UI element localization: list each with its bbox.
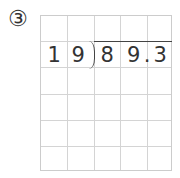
dividend-digit: 8 — [94, 42, 120, 68]
divisor-digit: 1 — [41, 42, 67, 68]
grid-line — [41, 94, 171, 95]
divisor-digit: 9 — [65, 42, 91, 68]
long-division-grid: 1 9 8 9 . 3 — [40, 15, 172, 171]
grid-line — [41, 146, 171, 147]
problem-number: ③ — [8, 8, 28, 30]
dividend-digit: 3 — [147, 42, 173, 68]
grid-line — [41, 120, 171, 121]
